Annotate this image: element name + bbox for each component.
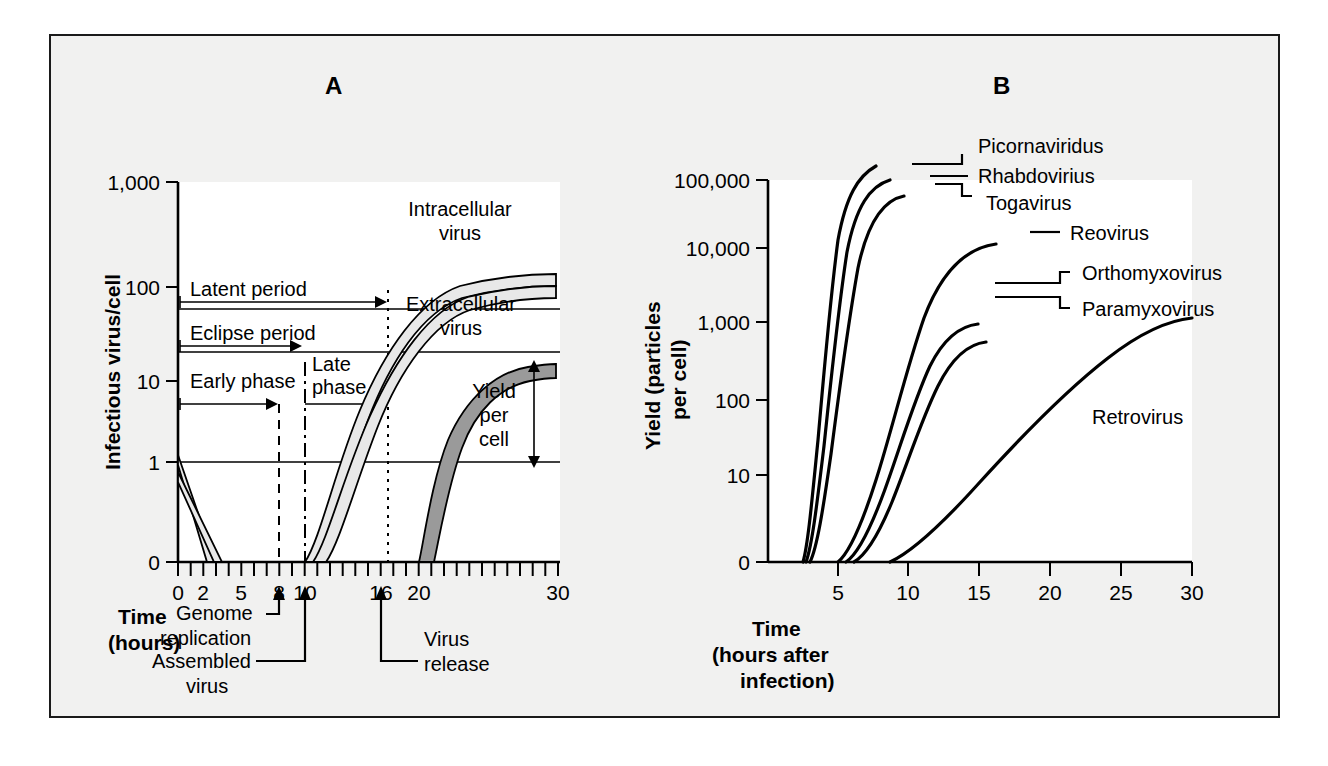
panel-a-letter: A [325,72,343,100]
figure-root: A B 1,000 100 10 1 0 Infectious virus/ce… [0,0,1328,766]
figure-frame [49,34,1280,718]
panel-b-letter: B [993,72,1011,100]
